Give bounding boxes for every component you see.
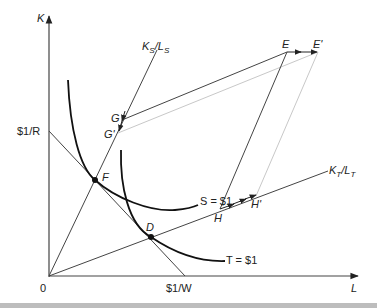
point-eprime-label: E': [313, 38, 323, 50]
isoquant-s-label: S = $1: [200, 195, 232, 207]
point-f: [92, 177, 98, 183]
point-gprime-label: G': [104, 128, 116, 140]
point-d-label: D: [146, 221, 154, 233]
point-hprime-label: H': [251, 198, 262, 210]
ray-kt-lt-label: KT/LT: [329, 164, 356, 179]
isoquant-diagram: K L 0 $1/R $1/W KS/LS KT/LT S = $1 T = $…: [0, 0, 377, 308]
arrow-h-to-hprime-2: [233, 199, 246, 204]
l-axis-label: L: [351, 282, 357, 294]
ray-kt-lt: [49, 171, 328, 276]
origin-label: 0: [40, 282, 46, 294]
k-intercept-label: $1/R: [17, 125, 40, 137]
l-intercept-label: $1/W: [166, 282, 192, 294]
point-e-label: E: [282, 38, 290, 50]
point-f-label: F: [102, 171, 110, 183]
k-axis-label: K: [37, 12, 45, 24]
point-h-label: H: [214, 212, 222, 224]
bottom-divider: [0, 303, 377, 308]
ray-ks-ls: [49, 50, 157, 276]
point-d: [148, 234, 154, 240]
isocost-line: [49, 131, 185, 276]
point-g-label: G: [111, 112, 120, 124]
isoquant-t-label: T = $1: [226, 254, 257, 266]
